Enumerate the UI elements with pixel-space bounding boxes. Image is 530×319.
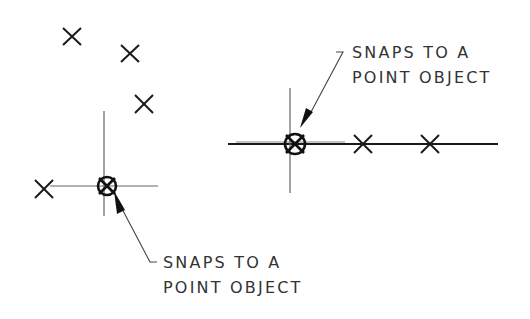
right-snap-label-line2: POINT OBJECT — [352, 65, 492, 90]
point-marker-x-icon — [35, 180, 53, 198]
leader-arrow-icon — [300, 52, 343, 128]
right-snap-label: SNAPS TO A POINT OBJECT — [352, 40, 492, 90]
point-marker-x-icon — [121, 45, 139, 62]
point-marker-x-icon — [63, 28, 81, 45]
cursor-crosshair-icon — [50, 111, 158, 216]
point-marker-x-icon — [135, 95, 153, 113]
left-snap-label-line1: SNAPS TO A — [163, 250, 303, 275]
leader-arrow-icon — [114, 191, 157, 262]
left-snap-label: SNAPS TO A POINT OBJECT — [163, 250, 303, 300]
left-snap-label-line2: POINT OBJECT — [163, 275, 303, 300]
right-snap-label-line1: SNAPS TO A — [352, 40, 492, 65]
left-example — [35, 28, 158, 262]
